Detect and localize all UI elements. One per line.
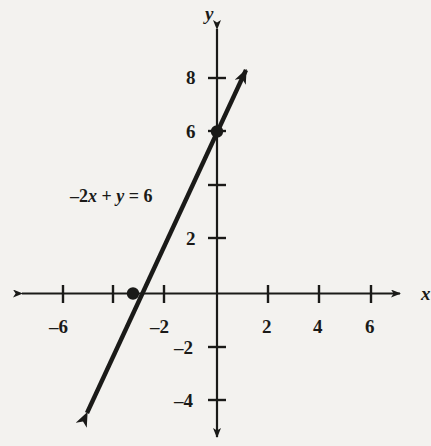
y-axis-label: y: [205, 4, 213, 23]
y-tick-label-6: 6: [186, 122, 196, 141]
y-tick-label-neg2: –2: [174, 338, 193, 357]
plotted-line-series: [87, 70, 246, 413]
line-minus2x-plus-y-equals-6: [87, 70, 246, 413]
equation-annotation: –2x + y = 6: [70, 187, 153, 205]
x-axis: [22, 285, 400, 303]
y-tick-label-2: 2: [186, 229, 196, 248]
x-tick-label-neg2: –2: [150, 317, 169, 336]
x-tick-label-6: 6: [365, 317, 375, 336]
point-x-intercept: [127, 287, 139, 299]
y-tick-label-neg4: –4: [174, 391, 193, 410]
equation-plus: +: [97, 186, 116, 206]
x-tick-label-neg6: –6: [49, 317, 68, 336]
equation-var-x: x: [88, 186, 97, 206]
graph-figure: y x –6 –2 2 4 6 8 6 2 –2 –4 –2x + y = 6: [0, 0, 431, 446]
x-axis-label: x: [421, 284, 431, 303]
y-axis: [208, 29, 226, 437]
x-tick-label-2: 2: [262, 317, 272, 336]
x-tick-label-4: 4: [313, 317, 323, 336]
equation-equals: = 6: [124, 186, 152, 206]
coordinate-plane: [0, 0, 431, 446]
point-y-intercept: [211, 125, 223, 137]
equation-lead: –2: [70, 186, 88, 206]
y-tick-label-8: 8: [186, 68, 196, 87]
